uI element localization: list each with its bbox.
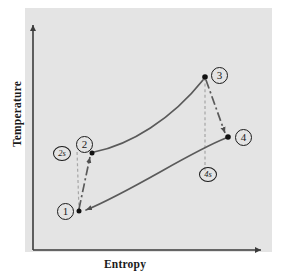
state-label-2: 2 (76, 136, 93, 153)
state-point-markers (77, 74, 231, 213)
line-1-to-2s (77, 150, 79, 211)
y-axis-label: Temperature (11, 59, 23, 169)
line-3-to-4-expansion (206, 80, 225, 133)
ts-diagram-figure: 1 2 2s 3 4 4s Temperature Entropy (0, 0, 281, 278)
state-label-2s: 2s (53, 146, 71, 161)
state-label-4: 4 (235, 129, 252, 146)
x-axis-label: Entropy (104, 258, 146, 270)
point-4 (225, 134, 231, 140)
isentropic-reference-lines (77, 78, 205, 211)
curve-2-to-3-heat-addition (94, 80, 203, 152)
line-1-to-2-compression (79, 157, 90, 209)
state-label-4s: 4s (199, 167, 217, 182)
point-3 (202, 74, 208, 80)
process-curves (79, 80, 226, 210)
state-label-1: 1 (57, 203, 74, 220)
state-label-3: 3 (211, 67, 228, 84)
point-1 (77, 209, 82, 214)
point-2 (90, 151, 95, 156)
